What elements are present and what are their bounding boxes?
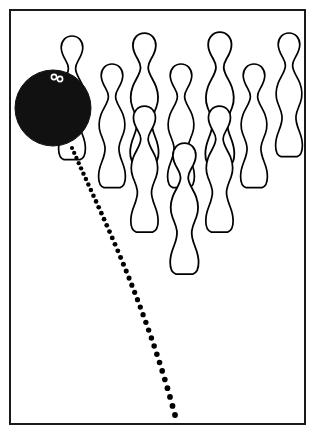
trajectory-dot (118, 255, 123, 260)
trajectory-dot (89, 188, 94, 193)
trajectory-dot (110, 235, 115, 240)
trajectory-dot (124, 269, 129, 274)
trajectory-dot (165, 385, 171, 391)
bowling-pin: Pin back right (276, 33, 303, 157)
trajectory-dot (113, 242, 118, 247)
scene-background (0, 0, 318, 432)
trajectory-dot (115, 248, 120, 253)
trajectory-dot (140, 312, 145, 317)
bowling-ball-body (15, 70, 91, 146)
trajectory-dot (91, 193, 96, 198)
pin-outline (131, 106, 158, 232)
trajectory-dot (167, 394, 173, 400)
trajectory-dot (81, 171, 85, 175)
trajectory-dot (104, 223, 109, 228)
trajectory-dot (162, 377, 168, 383)
trajectory-dot (121, 262, 126, 267)
trajectory-dot (151, 343, 156, 348)
bowling-diagram-root: Bowling ball striking pin formation Line… (0, 0, 318, 432)
bowling-pin: Pin right mid (241, 64, 268, 188)
pin-outline (170, 143, 198, 274)
trajectory-dot (86, 182, 90, 186)
pin-outline (276, 33, 303, 157)
bowling-pin: Pin center front right (206, 106, 233, 232)
trajectory-dot (79, 166, 83, 170)
trajectory-dot (74, 156, 78, 160)
trajectory-dot (107, 229, 112, 234)
bowling-pin: Pin front center (170, 143, 198, 274)
trajectory-dot (77, 161, 81, 165)
trajectory-dot (84, 177, 88, 181)
bowling-scene-canvas: Pin behind ballPin left midPin back left… (0, 0, 318, 432)
trajectory-dot (172, 412, 178, 418)
bowling-pin: Pin left mid (99, 64, 126, 188)
trajectory-dot (143, 320, 148, 325)
pin-outline (206, 106, 233, 232)
trajectory-dot (126, 276, 131, 281)
trajectory-dot (146, 327, 151, 332)
trajectory-dot (170, 403, 176, 409)
trajectory-dot (154, 351, 160, 357)
trajectory-dot (72, 151, 76, 155)
trajectory-dot (129, 283, 134, 288)
bowling-pin: Pin mid left front (131, 106, 158, 232)
trajectory-dot (70, 146, 74, 150)
pin-outline (99, 64, 126, 188)
trajectory-dot (138, 304, 143, 309)
pin-outline (241, 64, 268, 188)
trajectory-dot (159, 368, 165, 374)
trajectory-dot (149, 335, 154, 340)
trajectory-dot (132, 290, 137, 295)
trajectory-dot (135, 297, 140, 302)
trajectory-dot (96, 205, 101, 210)
trajectory-dot (157, 360, 163, 366)
bowling-ball (15, 70, 91, 146)
trajectory-dot (102, 217, 107, 222)
trajectory-dot (99, 211, 104, 216)
trajectory-dot (94, 199, 99, 204)
